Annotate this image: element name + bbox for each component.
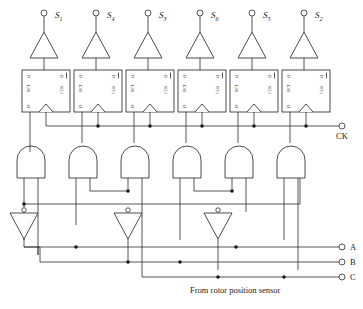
terminal-s6-icon[interactable] xyxy=(197,10,203,16)
junction-dot xyxy=(282,275,286,279)
label-a: A xyxy=(350,242,357,252)
flipflop-2: Q SET D Q CLR xyxy=(74,70,122,143)
ff2-pin-set: SET xyxy=(78,84,83,92)
junction-dot xyxy=(74,245,78,249)
top-terminal-group-s6: S6 xyxy=(197,10,219,32)
junction-dot xyxy=(252,124,256,128)
junction-dot xyxy=(216,275,220,279)
schematic-canvas: S1 S4 S3 S6 S5 S2 xyxy=(0,0,363,309)
terminal-s3-icon[interactable] xyxy=(145,10,151,16)
inverter-1 xyxy=(10,208,40,247)
buffer-icon-6 xyxy=(290,32,318,58)
ff3-pin-d: D xyxy=(130,104,135,109)
buffer-icon-2 xyxy=(82,32,110,58)
ff3-pin-clr: CLR xyxy=(163,86,168,94)
terminal-s4-icon[interactable] xyxy=(93,10,99,16)
ff6-pin-d: D xyxy=(286,104,291,109)
terminal-c-icon[interactable] xyxy=(339,274,345,280)
junction-dot xyxy=(96,124,100,128)
label-ck: CK xyxy=(336,131,349,141)
feedback-bus xyxy=(22,178,300,206)
ff6-pin-clr: CLR xyxy=(319,86,324,94)
ff2-pin-d: D xyxy=(78,104,83,109)
flipflop-1: Q SET D Q CLR xyxy=(22,70,70,143)
circuit-diagram: S1 S4 S3 S6 S5 S2 xyxy=(0,0,363,309)
flipflop-4: Q SET D Q CLR xyxy=(178,70,226,143)
terminal-ck-icon[interactable] xyxy=(339,123,345,129)
buffer-icon-1 xyxy=(30,32,58,58)
junction-dot xyxy=(178,260,182,264)
caption-rotor-sensor: From rotor position sensor xyxy=(190,285,281,295)
and-gate-1 xyxy=(17,143,45,255)
ff1-pin-d: D xyxy=(26,104,31,109)
ff4-pin-d: D xyxy=(182,104,187,109)
top-terminal-group-s3: S3 xyxy=(145,10,167,32)
buffer-icon-4 xyxy=(186,32,214,58)
junction-dot xyxy=(126,189,130,193)
ff5-pin-clr: CLR xyxy=(267,86,272,94)
top-terminal-group-s1: S1 xyxy=(41,10,63,32)
label-s2: S2 xyxy=(315,10,323,22)
ff4-pin-set: SET xyxy=(182,84,187,92)
top-terminal-group-s2: S2 xyxy=(301,10,323,32)
buffer-row xyxy=(30,32,318,70)
ff1-pin-set: SET xyxy=(26,84,31,92)
clock-bus: CK xyxy=(46,123,349,141)
flipflop-6: Q SET D Q CLR xyxy=(282,70,330,143)
and-gate-3 xyxy=(121,146,149,255)
ff5-pin-d: D xyxy=(234,104,239,109)
junction-dot xyxy=(234,245,238,249)
terminal-s2-icon[interactable] xyxy=(301,10,307,16)
flipflop-3: Q SET D Q CLR xyxy=(126,70,174,143)
ff3-pin-set: SET xyxy=(130,84,135,92)
terminal-s5-icon[interactable] xyxy=(249,10,255,16)
top-terminal-group-s4: S4 xyxy=(93,10,115,32)
terminal-a-icon[interactable] xyxy=(339,244,345,250)
and-gate-5 xyxy=(225,146,253,212)
ff1-pin-clr: CLR xyxy=(59,86,64,94)
input-line-a: A xyxy=(24,242,357,252)
ff5-pin-set: SET xyxy=(234,84,239,92)
junction-dot xyxy=(200,124,204,128)
flipflop-5: Q SET D Q CLR xyxy=(230,70,278,143)
junction-dot xyxy=(230,189,234,193)
junction-dot xyxy=(304,124,308,128)
terminal-b-icon[interactable] xyxy=(339,259,345,265)
ff6-pin-set: SET xyxy=(286,84,291,92)
bus-drops xyxy=(38,247,128,262)
inverter-2 xyxy=(114,208,142,255)
label-b: B xyxy=(350,257,356,267)
junction-dot xyxy=(148,124,152,128)
label-s4: S4 xyxy=(107,10,115,22)
and-gate-6 xyxy=(277,146,305,270)
label-s6: S6 xyxy=(211,10,219,22)
inverter-3 xyxy=(204,208,232,270)
buffer-icon-5 xyxy=(238,32,266,58)
label-s5: S5 xyxy=(263,10,271,22)
input-line-b: B xyxy=(40,247,356,267)
junction-dot xyxy=(22,202,26,206)
label-s3: S3 xyxy=(159,10,167,22)
top-terminal-group-s5: S5 xyxy=(249,10,271,32)
buffer-icon-3 xyxy=(134,32,162,58)
inverter-1-bubble-icon xyxy=(22,208,26,212)
terminal-s1-icon[interactable] xyxy=(41,10,47,16)
ff4-pin-clr: CLR xyxy=(215,86,220,94)
label-s1: S1 xyxy=(55,10,63,22)
input-line-c: C xyxy=(142,255,356,282)
ff2-pin-clr: CLR xyxy=(111,86,116,94)
inverter-2-bubble-icon xyxy=(126,208,130,212)
inverter-3-bubble-icon xyxy=(216,208,220,212)
label-c: C xyxy=(350,272,356,282)
